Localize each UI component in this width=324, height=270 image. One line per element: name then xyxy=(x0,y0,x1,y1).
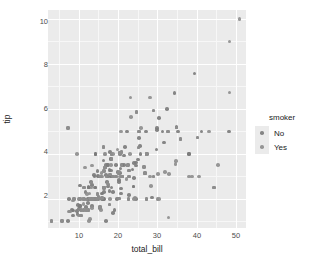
data-point xyxy=(109,169,113,173)
data-point xyxy=(104,219,108,223)
data-point xyxy=(123,145,127,149)
legend-dot-icon xyxy=(260,145,264,149)
data-point xyxy=(111,190,115,194)
data-point xyxy=(82,186,86,190)
data-point xyxy=(96,192,100,196)
data-point xyxy=(114,163,118,167)
data-point xyxy=(129,96,133,100)
data-point xyxy=(144,130,148,134)
data-point xyxy=(196,136,200,140)
data-point xyxy=(137,146,141,150)
data-point xyxy=(228,40,232,44)
gridline-major-vertical xyxy=(197,10,198,228)
data-point xyxy=(127,169,131,173)
gridline-major-horizontal xyxy=(48,109,246,110)
data-point xyxy=(216,163,220,167)
legend-key-no xyxy=(255,126,269,140)
data-point xyxy=(179,137,183,141)
data-point xyxy=(148,96,152,100)
data-point xyxy=(167,216,171,220)
data-point xyxy=(212,186,216,190)
y-tick-label: 10 xyxy=(40,18,48,26)
legend-title: smoker xyxy=(269,113,321,122)
x-tick-label: 30 xyxy=(153,232,161,240)
data-point xyxy=(60,219,64,223)
data-point xyxy=(139,126,143,130)
data-point xyxy=(193,72,197,76)
legend-item-yes[interactable]: Yes xyxy=(255,140,321,154)
data-point xyxy=(83,208,87,212)
data-point xyxy=(174,159,178,163)
data-point xyxy=(125,130,129,134)
data-point xyxy=(119,130,123,134)
data-point xyxy=(102,145,106,149)
data-point xyxy=(98,197,102,201)
legend-item-no[interactable]: No xyxy=(255,126,321,140)
y-tick-label: 6 xyxy=(44,105,48,113)
data-point xyxy=(108,197,112,201)
data-point xyxy=(66,219,70,223)
data-point xyxy=(72,197,76,201)
data-point xyxy=(145,197,149,201)
data-point xyxy=(127,193,131,197)
data-point xyxy=(238,17,242,21)
data-point xyxy=(131,168,135,172)
data-point xyxy=(156,172,160,176)
data-point xyxy=(122,154,126,158)
gridline-minor-vertical xyxy=(138,10,139,228)
gridline-major-horizontal xyxy=(48,19,246,20)
data-point xyxy=(207,130,211,134)
data-point xyxy=(108,203,112,207)
legend-label-yes: Yes xyxy=(274,143,287,152)
data-point xyxy=(78,184,82,188)
data-point xyxy=(129,115,133,119)
gridline-major-vertical xyxy=(118,10,119,228)
data-point xyxy=(227,130,231,134)
data-point xyxy=(152,109,156,113)
gridline-minor-vertical xyxy=(216,10,217,228)
data-point xyxy=(176,130,180,134)
x-tick-label: 40 xyxy=(193,232,201,240)
data-point xyxy=(111,175,115,179)
gridline-major-vertical xyxy=(79,10,80,228)
data-point xyxy=(149,184,153,188)
legend: smoker No Yes xyxy=(255,113,321,154)
data-point xyxy=(111,211,115,215)
scatter-plot-figure: 10 8 6 4 2 10 20 30 40 50 total_bill tip… xyxy=(0,0,324,270)
data-point xyxy=(128,152,132,156)
data-point xyxy=(190,175,194,179)
data-point xyxy=(127,197,131,201)
data-point xyxy=(106,181,110,185)
data-point xyxy=(139,152,143,156)
data-point xyxy=(136,158,140,162)
data-point xyxy=(118,175,122,179)
data-point xyxy=(89,197,93,201)
data-point xyxy=(143,171,147,175)
data-point xyxy=(71,214,75,218)
data-point xyxy=(102,159,106,163)
y-axis-title: tip xyxy=(2,115,12,124)
data-point xyxy=(132,197,136,201)
data-point xyxy=(102,169,106,173)
data-point xyxy=(111,152,115,156)
data-point xyxy=(152,175,156,179)
data-point xyxy=(200,130,204,134)
data-point xyxy=(166,130,170,134)
data-point xyxy=(167,172,171,176)
data-point xyxy=(83,166,87,170)
x-axis-title: total_bill xyxy=(48,244,246,254)
data-point xyxy=(161,130,165,134)
x-tick-label: 10 xyxy=(75,232,83,240)
data-point xyxy=(228,91,232,95)
data-point xyxy=(109,163,113,167)
data-point xyxy=(150,196,154,200)
data-point xyxy=(132,185,136,189)
data-point xyxy=(110,157,114,161)
legend-label-no: No xyxy=(274,129,284,138)
data-point xyxy=(76,203,80,207)
y-tick-label: 8 xyxy=(44,61,48,69)
legend-dot-icon xyxy=(260,131,264,135)
data-point xyxy=(118,152,122,156)
y-tick-label: 4 xyxy=(44,148,48,156)
data-point xyxy=(163,170,167,174)
